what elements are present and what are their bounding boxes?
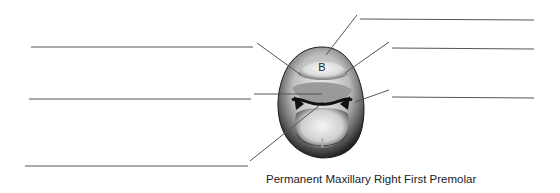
tooth-occlusal-view: B L <box>278 47 364 158</box>
label-blank-right-3[interactable] <box>392 97 534 98</box>
label-blank-right-1[interactable] <box>360 19 534 20</box>
diagram-canvas: B L <box>0 0 560 193</box>
leader-line-right-2 <box>345 42 389 73</box>
buccal-label: B <box>318 61 325 73</box>
figure-caption: Permanent Maxillary Right First Premolar <box>266 173 476 185</box>
lingual-label: L <box>321 137 328 151</box>
label-blank-right-2[interactable] <box>392 48 534 49</box>
leader-line-right-1 <box>326 15 357 55</box>
